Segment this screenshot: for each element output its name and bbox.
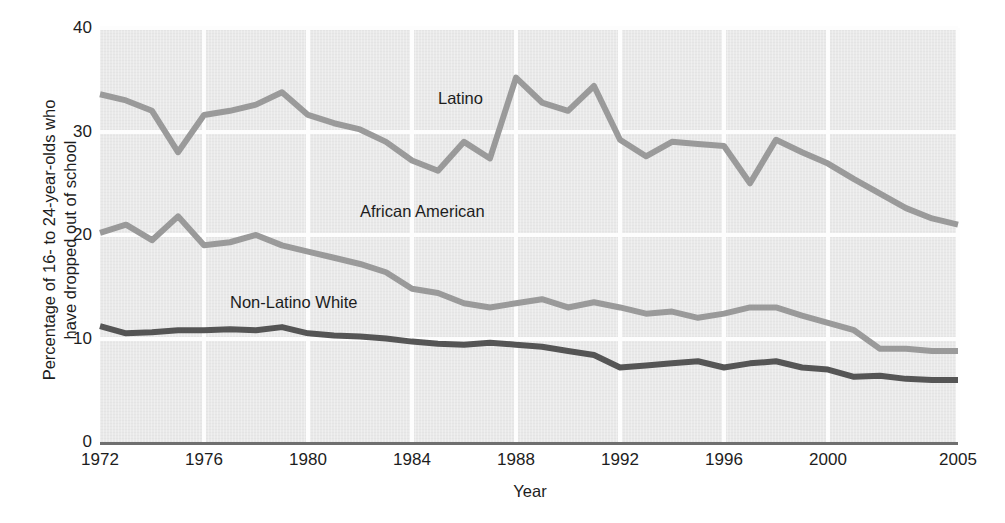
x-axis-title: Year [100, 482, 960, 501]
x-axis-tick-label: 1992 [575, 450, 665, 470]
series-label: African American [360, 202, 485, 221]
y-axis-tick-label: 20 [48, 225, 92, 245]
x-axis-tick-label: 2000 [783, 450, 873, 470]
y-axis-tick-label: 0 [48, 432, 92, 452]
y-axis-tick-labels: 010203040 [46, 28, 92, 442]
chart-figure: Percentage of 16- to 24-year-olds who ha… [0, 0, 1005, 523]
y-axis-tick-label: 40 [48, 18, 92, 38]
y-axis-tick-label: 10 [48, 329, 92, 349]
series-label: Non-Latino White [230, 293, 357, 312]
x-axis-tick-label: 2005 [913, 450, 1003, 470]
y-axis-tick-label: 30 [48, 122, 92, 142]
x-axis-tick-label: 1972 [55, 450, 145, 470]
plot-area: LatinoAfrican AmericanNon-Latino White [100, 28, 958, 442]
series-lines [100, 28, 958, 442]
line-series [100, 78, 958, 225]
x-axis-tick-label: 1976 [159, 450, 249, 470]
x-axis-line [100, 442, 958, 445]
x-axis-tick-label: 1988 [471, 450, 561, 470]
series-label: Latino [438, 89, 483, 108]
x-axis-tick-label: 1996 [679, 450, 769, 470]
line-series [100, 326, 958, 380]
x-axis-tick-label: 1980 [263, 450, 353, 470]
x-axis-tick-label: 1984 [367, 450, 457, 470]
